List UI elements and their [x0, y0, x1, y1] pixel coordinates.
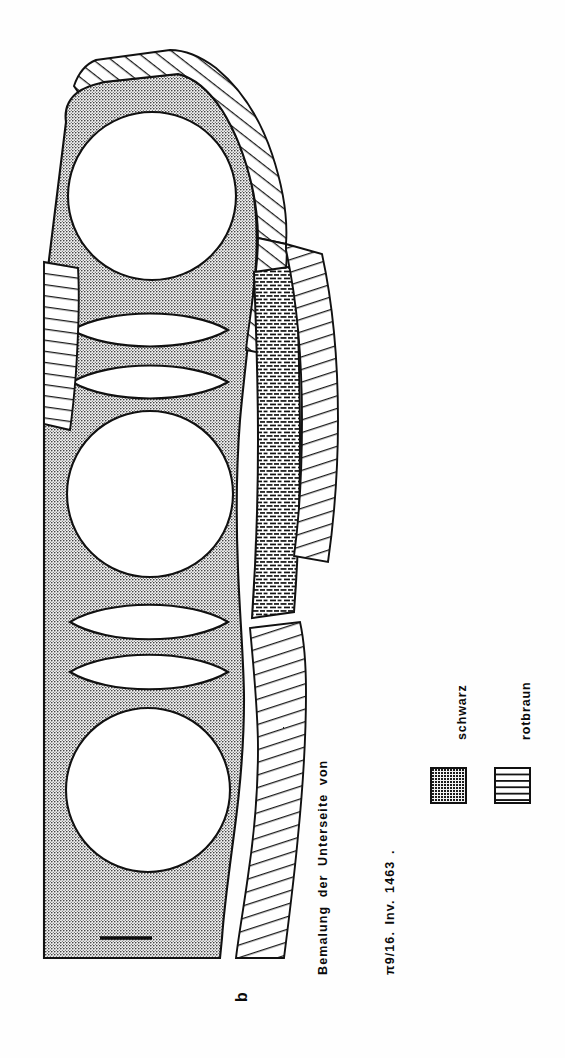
- motif-circle: [67, 411, 233, 577]
- legend-swatch-schwarz: [430, 767, 467, 804]
- break-edge-hatch-left: [44, 262, 79, 430]
- decorative-motifs: [66, 112, 236, 872]
- legend-swatch-rotbraun: [494, 767, 531, 804]
- motif-circle: [66, 708, 230, 872]
- illustration-page: Bemalung der Unterseite von π9/16. Inv. …: [0, 0, 565, 1058]
- break-edge-hatch-right-lower: [236, 622, 306, 958]
- caption-line-2: π9/16. Inv. 1463 .: [383, 850, 397, 975]
- rotbraun-painted-band: [252, 266, 300, 618]
- caption-line-1: Bemalung der Unterseite von: [316, 760, 330, 975]
- legend-label-rotbraun: rotbraun: [519, 681, 533, 740]
- legend-label-schwarz: schwarz: [455, 684, 469, 740]
- motif-circle: [68, 112, 236, 280]
- figure-label: b: [233, 992, 251, 1002]
